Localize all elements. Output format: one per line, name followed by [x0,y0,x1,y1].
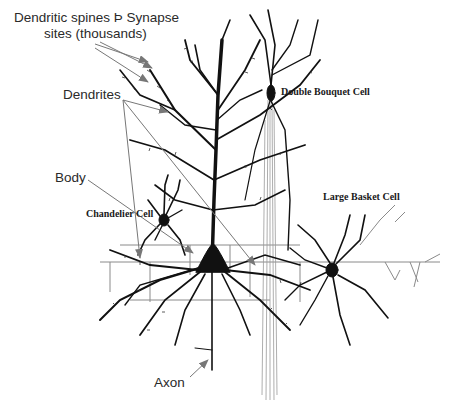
axon-arrow [190,360,208,377]
large-basket-cell-label: Large Basket Cell [323,191,400,202]
spines-label-line1: Dendritic spines Þ Synapse [14,10,179,26]
double-bouquet-cell-label: Double Bouquet Cell [281,86,370,97]
spines-label-line2: sites (thousands) [44,26,147,42]
spine-arrow-2 [100,42,152,68]
body-label: Body [55,170,86,186]
neuron-diagram: Dendritic spines Þ Synapse sites (thousa… [0,0,465,405]
chandelier-cell-label: Chandelier Cell [86,208,153,219]
neuron-illustration [0,0,465,405]
double-bouquet-cell [245,10,318,250]
axon-label: Axon [154,375,185,391]
double-bouquet-axon-bundle [262,100,277,400]
dendrites-label: Dendrites [63,87,121,103]
dendrite-arrow-2 [123,100,140,258]
